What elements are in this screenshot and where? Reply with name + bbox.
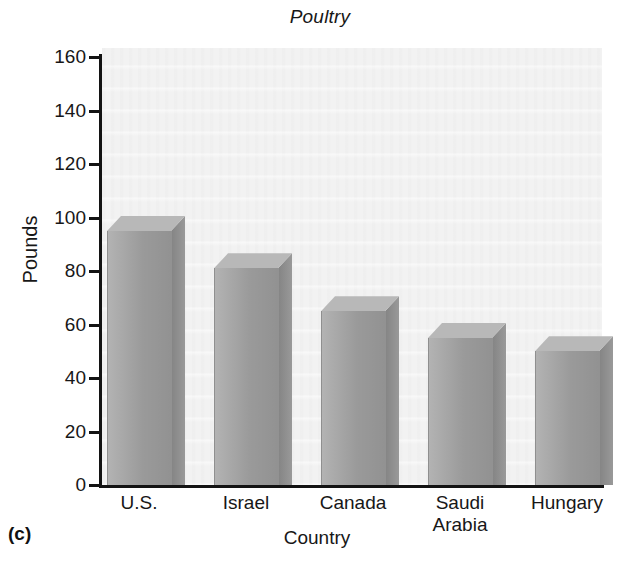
- bar-side-face: [492, 323, 506, 485]
- y-axis-tick-label: 20: [40, 422, 86, 441]
- x-axis-category-label-line: Arabia: [395, 514, 525, 536]
- y-axis-tick: [89, 431, 102, 434]
- bar-u-s: [107, 48, 185, 485]
- y-axis-tick: [89, 110, 102, 113]
- y-axis-tick-label: 80: [40, 261, 86, 280]
- chart-figure: Poultry 020406080100120140160 Pounds U.S…: [0, 0, 640, 566]
- bar-canada: [321, 48, 399, 485]
- x-axis-category-label: Hungary: [502, 492, 632, 514]
- bar-front-face: [428, 338, 493, 485]
- y-axis-tick: [89, 324, 102, 327]
- y-axis-tick-label: 40: [40, 368, 86, 387]
- bar-saudi-arabia: [428, 48, 506, 485]
- x-axis-category-label-line: U.S.: [121, 492, 158, 513]
- bar-side-face: [385, 296, 399, 485]
- y-axis-title: Pounds: [19, 170, 42, 330]
- bar-hungary: [535, 48, 613, 485]
- y-axis-tick: [89, 270, 102, 273]
- bar-front-face: [321, 311, 386, 485]
- x-axis-category-label-line: Hungary: [531, 492, 603, 513]
- bar-side-face: [171, 216, 185, 485]
- bar-front-face: [107, 231, 172, 485]
- chart-title: Poultry: [0, 6, 640, 28]
- y-axis-tick: [89, 56, 102, 59]
- y-axis-tick-label: 100: [40, 208, 86, 227]
- y-axis-tick: [89, 217, 102, 220]
- plot-area: [102, 48, 602, 485]
- x-axis-category-label-line: Saudi: [436, 492, 485, 513]
- y-axis-tick: [89, 377, 102, 380]
- x-axis-category-label-line: Canada: [320, 492, 387, 513]
- x-axis-category-label-line: Israel: [223, 492, 269, 513]
- bar-front-face: [214, 268, 279, 485]
- y-axis-tick-label: 140: [40, 101, 86, 120]
- y-axis-tick-label: 160: [40, 47, 86, 66]
- y-axis-tick: [89, 484, 102, 487]
- x-axis-title: Country: [252, 527, 382, 549]
- bar-israel: [214, 48, 292, 485]
- bar-side-face: [278, 253, 292, 485]
- y-axis-tick-label: 60: [40, 315, 86, 334]
- y-axis-tick: [89, 163, 102, 166]
- bar-side-face: [599, 336, 613, 485]
- x-axis-line: [99, 485, 604, 488]
- bar-front-face: [535, 351, 600, 485]
- panel-letter: (c): [8, 523, 31, 545]
- y-axis-tick-label: 120: [40, 154, 86, 173]
